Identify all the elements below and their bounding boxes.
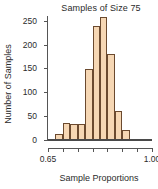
histogram-figure: Samples of Size 75 Number of Samples 050… <box>0 0 158 189</box>
y-axis-tick-label: 150 <box>23 63 37 73</box>
x-axis-label: Sample Proportions <box>40 173 158 183</box>
chart-title: Samples of Size 75 <box>44 3 158 13</box>
x-axis-baseline <box>48 139 152 141</box>
histogram-bar <box>100 17 107 140</box>
x-axis-tick <box>93 148 94 152</box>
histogram-bar <box>70 124 77 140</box>
x-axis-tick <box>63 148 64 152</box>
x-axis-tick <box>137 148 138 152</box>
y-axis-tick-label: 200 <box>23 40 37 50</box>
histogram-bar <box>85 69 92 140</box>
y-axis-tick-label: 250 <box>23 16 37 26</box>
x-axis-tick <box>48 148 49 152</box>
x-axis-tick <box>152 148 153 152</box>
x-axis-tick <box>107 148 108 152</box>
plot-area <box>48 16 152 140</box>
x-axis-tick-label: 0.65 <box>40 154 57 164</box>
x-axis-tick-label: 1.00 <box>144 154 158 164</box>
x-axis-tick <box>78 148 79 152</box>
histogram-bar <box>78 124 85 140</box>
y-axis-tick-label: 50 <box>28 111 37 121</box>
histogram-bar <box>93 26 100 140</box>
histogram-bar <box>115 111 122 140</box>
histogram-bar <box>63 123 70 140</box>
y-axis: 050100150200250 <box>40 16 48 140</box>
y-axis-tick-label: 0 <box>32 135 37 145</box>
x-axis-tick <box>122 148 123 152</box>
x-axis: 0.651.00 <box>48 148 152 164</box>
y-axis-label: Number of Samples <box>3 24 13 144</box>
histogram-bar <box>107 54 114 140</box>
y-axis-tick-label: 100 <box>23 87 37 97</box>
